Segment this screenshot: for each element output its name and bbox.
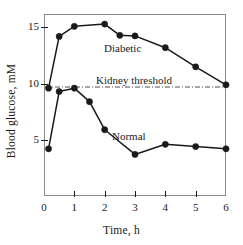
data-point — [223, 82, 229, 88]
data-point — [223, 146, 229, 152]
y-tick-label: 15 — [17, 21, 39, 32]
data-point — [162, 141, 168, 147]
x-tick-label: 5 — [188, 202, 204, 213]
x-tick-label: 0 — [36, 202, 52, 213]
x-axis-title: Time, h — [0, 224, 243, 236]
y-tick-label: 5 — [17, 134, 39, 145]
x-tick-mark — [196, 191, 197, 197]
data-point — [132, 151, 138, 157]
y-tick-label: 10 — [17, 78, 39, 89]
y-axis-title: Blood glucose, mM — [5, 41, 17, 181]
data-point — [162, 45, 168, 51]
data-point — [56, 88, 62, 94]
x-tick-label: 6 — [218, 202, 234, 213]
x-tick-label: 4 — [157, 202, 173, 213]
x-tick-mark — [165, 191, 166, 197]
x-tick-label: 3 — [127, 202, 143, 213]
x-tick-mark — [74, 191, 75, 197]
x-tick-label: 2 — [97, 202, 113, 213]
data-point — [193, 143, 199, 149]
data-point — [86, 99, 92, 105]
data-point — [117, 32, 123, 38]
x-tick-mark — [105, 191, 106, 197]
data-point — [132, 33, 138, 39]
diabetic-series-label: Diabetic — [104, 42, 141, 54]
y-tick-mark — [41, 84, 48, 85]
data-point — [56, 33, 62, 39]
data-point — [102, 21, 108, 27]
data-point — [193, 64, 199, 70]
data-point — [45, 85, 51, 91]
x-tick-label: 1 — [66, 202, 82, 213]
kidney-threshold-label: Kidney threshold — [96, 74, 172, 86]
data-point — [71, 85, 77, 91]
data-point — [102, 127, 108, 133]
x-tick-mark — [135, 191, 136, 197]
normal-series-label: Normal — [112, 130, 146, 142]
chart-figure: 51015 0123456 Diabetic Normal Kidney thr… — [0, 0, 243, 245]
data-point — [45, 146, 51, 152]
series-normal — [45, 85, 229, 157]
y-tick-mark — [41, 140, 48, 141]
data-point — [71, 23, 77, 29]
y-tick-mark — [41, 27, 48, 28]
